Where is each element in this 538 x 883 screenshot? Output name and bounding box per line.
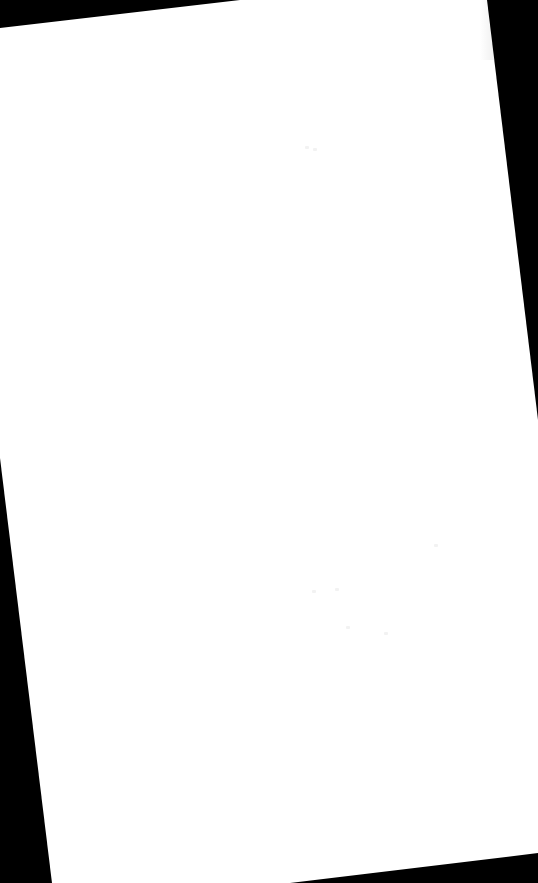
page-speck (335, 588, 339, 591)
page-speck (434, 544, 438, 547)
page-edge-shadow (480, 0, 494, 60)
page-speck (305, 146, 309, 149)
page-speck (346, 626, 350, 629)
page-speck (313, 148, 317, 151)
page-speck (312, 590, 316, 593)
document-page (0, 0, 538, 883)
page-speck (384, 632, 388, 635)
